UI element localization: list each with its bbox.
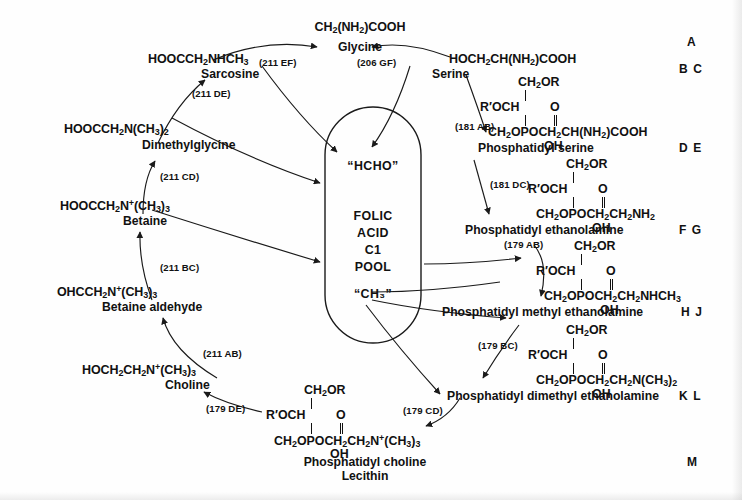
enzyme-label-211-EF: (211 EF) [259,58,297,69]
enzyme-label-181-DC: (181 DC) [490,180,530,191]
arrow-serine-to-glycine [372,45,450,57]
pme-bond-1 [581,254,582,265]
dimethylglycine-formula: HOOCCH2N(CH3)2 [64,122,169,137]
arrow-spoke-pool-to-methyl-ethanolamine [424,258,521,264]
serine-formula: HOCH2CH(NH2)COOH [449,52,576,67]
row-label-FG: F G [679,224,702,237]
enzyme-label-211-BC: (211 BC) [160,263,199,274]
pool-center-label: FOLIC ACID C1 POOL [353,208,392,276]
phosphatidyl-dimethyl-ethanolamine-name: Phosphatidyl dimethyl ethanolamine [447,390,659,404]
betaine-formula: HOOCCH2N+(CH3)3 [60,198,170,214]
pe-bottom-chain: CH2OPOCH2CH2NH2 [536,208,655,222]
betaine-aldehyde-formula: OHCCH2N+(CH3)3 [57,284,157,300]
pde-top-group: CH2OR [566,324,607,338]
row-label-A: A [687,36,697,49]
pc-bond-2 [311,423,312,434]
pde-bond-1 [573,338,574,349]
ps-top-group: CH2OR [518,76,559,90]
diagram-page: CH2(NH2)COOH Glycine HOOCCH2NHCH3 Sarcos… [0,0,742,500]
arrow-spoke-pool-to-phosphatidyl-choline [366,305,440,394]
pme-carbonyl-o: O [606,265,616,277]
pe-carbonyl-o: O [598,183,608,195]
pool-line-pool: POOL [353,259,392,276]
arrow-spoke-sarcosine-glycine-to-pool [262,66,337,152]
ps-carbonyl-o: O [550,101,560,113]
pc-carbonyl-o: O [336,409,346,421]
betaine-aldehyde-name: Betaine aldehyde [102,301,202,315]
pc-bond-1 [311,398,312,409]
ps-bottom-chain: CH2OPOCH2CH(NH2)COOH [488,126,647,140]
phosphatidyl-serine-name: Phosphatidyl serine [478,142,594,156]
phosphatidyl-methyl-ethanolamine-name: Phosphatidyl methyl ethanolamine [442,306,643,320]
pde-carbonyl-o: O [598,349,608,361]
dimethylglycine-name: Dimethylglycine [142,139,235,153]
enzyme-label-211-CD: (211 CD) [160,172,199,183]
pool-bottom-label: “CH₃” [354,288,392,302]
arrow-spoke-betaine-to-pool [152,210,320,262]
glycine-formula: CH2(NH2)COOH [315,20,406,35]
row-label-HJ: H J [681,306,703,319]
pe-top-group: CH2OR [566,158,607,172]
enzyme-label-179-DE: (179 DE) [206,404,245,415]
enzyme-label-206-GF: (206 GF) [357,58,396,69]
enzyme-label-179-BC: (179 BC) [478,341,518,352]
serine-name: Serine [432,68,469,82]
betaine-name: Betaine [123,215,167,229]
pe-mid-group: R′OCH [528,183,567,195]
pc-mid-group: R′OCH [266,409,305,421]
pool-top-label: “HCHO” [347,160,398,174]
enzyme-label-179-AB: (179 AB) [504,240,543,251]
row-label-KL: K L [679,390,702,403]
enzyme-label-211-AB: (211 AB) [203,349,242,360]
enzyme-label-179-CD: (179 CD) [403,406,443,417]
row-label-M: M [687,456,698,469]
row-label-DE: D E [679,142,702,155]
choline-name: Choline [165,379,210,393]
pool-line-c1: C1 [353,242,392,259]
pool-line-acid: ACID [353,225,392,242]
phosphatidyl-ethanolamine-name: Phosphatidyl ethanolamine [465,224,623,238]
ps-mid-group: R′OCH [480,101,519,113]
phosphatidyl-choline-name: Phosphatidyl choline [304,456,427,470]
row-label-BC: B C [679,63,703,76]
enzyme-label-211-DE: (211 DE) [192,89,231,100]
choline-formula: HOCH2CH2N+(CH3)3 [82,362,196,378]
pde-mid-group: R′OCH [528,349,567,361]
lecithin-name: Lecithin [342,470,389,484]
sarcosine-formula: HOOCCH2NHCH3 [148,52,249,67]
arrow-phosphatidyl-serine-to-ethanolamine [474,160,489,214]
ps-bond-1 [525,90,526,101]
glycine-name: Glycine [338,41,382,55]
pc-top-group: CH2OR [304,384,345,398]
pde-bottom-chain: CH2OPOCH2CH2N(CH3)2 [536,374,677,388]
pe-bond-1 [573,172,574,183]
pool-line-folic: FOLIC [353,208,392,225]
pme-mid-group: R′OCH [536,265,575,277]
arrow-spoke-serine-glycine-to-pool [372,66,410,147]
enzyme-label-181-AB: (181 AB) [455,122,494,133]
pme-top-group: CH2OR [574,240,615,254]
pme-bottom-chain: CH2OPOCH2CH2NHCH3 [544,290,681,304]
sarcosine-name: Sarcosine [201,68,259,82]
pc-double-bond [340,423,341,434]
